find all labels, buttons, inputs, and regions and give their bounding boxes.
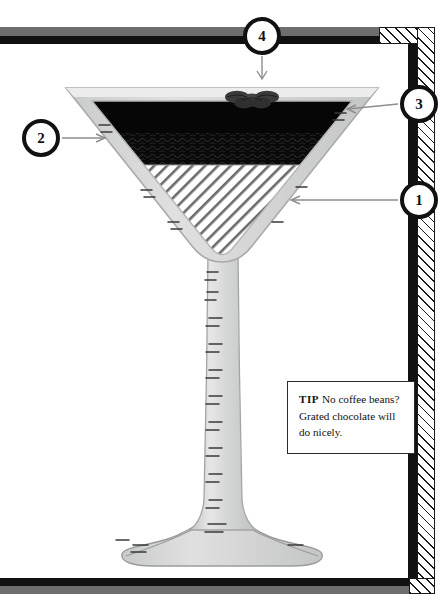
callout-1[interactable]: 1 [400, 181, 438, 219]
callout-3-label: 3 [415, 96, 423, 113]
callout-3[interactable]: 3 [400, 85, 438, 123]
callout-2-label: 2 [37, 130, 45, 147]
tip-paragraph: TIP No coffee beans? Grated chocolate wi… [299, 391, 405, 441]
tip-box: TIP No coffee beans? Grated chocolate wi… [287, 381, 415, 454]
tip-label: TIP [299, 393, 319, 405]
callout-1-label: 1 [415, 192, 423, 209]
callout-4-label: 4 [258, 28, 266, 45]
martini-glass-illustration [0, 0, 444, 614]
glass-stem [190, 252, 256, 530]
glass-contents [80, 98, 370, 270]
callout-4[interactable]: 4 [243, 17, 281, 55]
glass-bowl [66, 88, 378, 270]
foam-layer [80, 98, 370, 133]
callout-2[interactable]: 2 [22, 119, 60, 157]
illustration-canvas: 1 2 3 4 TIP No coffee beans? Grated choc… [0, 0, 444, 614]
